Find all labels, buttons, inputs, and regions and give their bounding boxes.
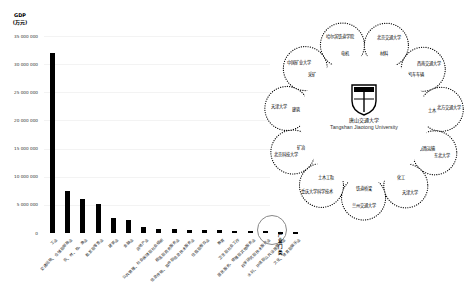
node-inner-label: 材料: [380, 50, 389, 57]
node-inner-label: 铁道桥梁: [356, 185, 373, 192]
node-outer-label: 北京科技大学: [274, 151, 298, 158]
x-axis-title: 产业门类: [278, 231, 282, 255]
node-inner-label: 电机: [341, 50, 350, 57]
node-inner-label: 采矿: [308, 71, 316, 78]
gridline: [44, 64, 270, 65]
bar: [80, 199, 85, 233]
node-outer-label: 西南交通大学: [417, 60, 441, 67]
y-axis-title-line2: (万元): [8, 19, 32, 26]
y-axis-title: GDP (万元): [8, 12, 32, 26]
bar: [96, 204, 101, 233]
node-outer-label: 重庆大学科学技术: [301, 188, 334, 195]
gridline: [44, 205, 270, 206]
x-tick-label: 建筑业: [107, 237, 119, 249]
node-outer-label: 哈尔滨铁道学院: [326, 33, 355, 40]
center-name-cn: 唐山交通大学: [349, 117, 379, 124]
node-outer-label: 东北大学: [434, 152, 450, 159]
gdp-bar-chart: GDP (万元) 05 000 00010 000 00015 000 0002…: [0, 0, 270, 295]
node-outer-label: 天津大学: [402, 189, 418, 196]
gridline: [44, 120, 270, 121]
bar: [65, 191, 70, 233]
bar: [126, 220, 131, 233]
y-tick-label: 15 000 000: [0, 146, 38, 151]
node-outer-label: 中国矿业大学: [287, 59, 311, 66]
diagram-svg: 哈尔滨铁道学院电机北京交通大学材料西南交通大学机车车辆北方交通大学土木东北大学铁…: [262, 12, 466, 226]
x-tick-label: 教育: [217, 237, 226, 246]
bar: [50, 53, 55, 233]
node-outer-label: 北方交通大学: [437, 104, 461, 111]
bar: [156, 229, 161, 233]
node-outer-label: 兰州交通大学: [352, 202, 376, 209]
gridline: [44, 177, 270, 178]
gridline: [44, 92, 270, 93]
node-inner-label: 土木: [428, 107, 437, 114]
node-outer-label: 天津大学: [271, 103, 287, 110]
node-inner-label: 建筑: [292, 106, 301, 113]
bar: [111, 218, 116, 233]
y-tick-label: 20 000 000: [0, 118, 38, 123]
bar: [217, 230, 222, 233]
node-inner-label: 化工: [397, 174, 405, 181]
y-tick-label: 30 000 000: [0, 62, 38, 67]
y-tick-label: 25 000 000: [0, 90, 38, 95]
gridline: [44, 149, 270, 150]
university-lineage-diagram: 哈尔滨铁道学院电机北京交通大学材料西南交通大学机车车辆北方交通大学土木东北大学铁…: [262, 12, 466, 226]
y-tick-label: 5 000 000: [0, 202, 38, 207]
node-outer-label: 北京交通大学: [377, 34, 401, 41]
y-axis-title-line1: GDP: [8, 12, 32, 19]
bar: [232, 231, 237, 233]
y-tick-label: 10 000 000: [0, 174, 38, 179]
x-tick-label: 金融业: [123, 237, 135, 249]
x-tick-label: 工业: [49, 237, 58, 246]
bar: [187, 230, 192, 233]
bar: [248, 231, 253, 233]
gridline: [44, 36, 270, 37]
bar: [141, 227, 146, 233]
bar: [202, 230, 207, 233]
y-tick-label: 35 000 000: [0, 34, 38, 39]
bar: [172, 229, 177, 233]
center-name-en: Tangshan Jiaotong University: [330, 124, 398, 130]
y-tick-label: 0: [0, 231, 38, 236]
node-inner-label: 矿冶: [297, 144, 305, 151]
bar: [293, 232, 298, 234]
